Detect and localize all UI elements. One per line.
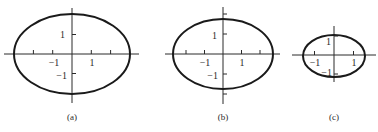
panel-caption: (a) [67,112,77,122]
y-tick-label-neg1: −1 [321,67,332,78]
y-tick-label-neg1: −1 [56,70,67,81]
panel-b: 1 −1 −1 1 (b) [165,7,280,122]
y-tick-label-1: 1 [60,29,65,40]
x-tick-label-neg1: −1 [49,57,60,68]
x-tick-label-1: 1 [352,57,357,68]
y-tick-label-neg1: −1 [207,70,218,81]
x-tick-label-1: 1 [240,57,245,68]
x-tick-label-neg1: −1 [200,57,211,68]
y-tick-label-1: 1 [326,36,331,47]
y-tick-label-1: 1 [212,30,217,41]
ellipse-figure: 1 −1 −1 1 (a) 1 −1 −1 1 (b) 1 −1 −1 1 (c… [0,0,378,132]
panel-c: 1 −1 −1 1 (c) [292,26,376,122]
panel-a: 1 −1 −1 1 (a) [4,8,139,122]
panel-caption: (b) [218,112,229,122]
x-tick-label-1: 1 [90,57,95,68]
panel-caption: (c) [329,112,339,122]
x-tick-label-neg1: −1 [310,57,321,68]
